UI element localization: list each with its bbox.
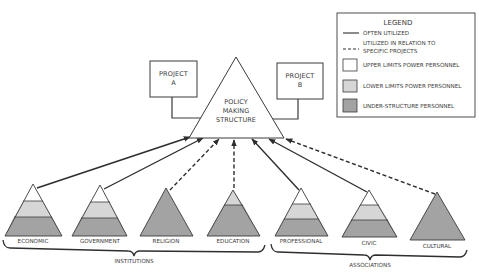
under-structure-swatch-icon [343,99,357,112]
project-a: PROJECT A [150,61,201,118]
power-structure-diagram: PROJECT A PROJECT B POLICY MAKING STRUCT… [0,0,479,274]
arrow-cultural [286,139,435,194]
pyramid-education: EDUCATION [207,190,260,244]
upper-limits-swatch-icon [343,59,357,71]
policy-line2: MAKING [223,107,250,115]
project-b-line1: PROJECT [286,72,315,80]
pyramid-economic: ECONOMIC [5,184,62,244]
legend-under-structure: UNDER-STRUCTURE PERSONNEL [363,103,455,109]
project-a-line2: A [171,79,176,87]
lower-limits-swatch-icon [343,80,357,92]
legend-specific-line1: UTILIZED IN RELATION TO [363,40,436,46]
project-b-line2: B [298,81,303,89]
group-label-associations: ASSOCIATIONS [349,262,391,268]
pyramid-religion: RELIGION [140,188,193,244]
pyramid-civic: CIVIC [342,190,397,246]
project-b: PROJECT B [271,63,323,119]
pyramid-label-government: GOVERNMENT [80,238,121,244]
legend-upper-limits: UPPER LIMITS POWER PERSONNEL [363,62,460,68]
policy-line1: POLICY [224,98,248,106]
connector-arrows [37,137,435,194]
project-a-line1: PROJECT [159,70,188,78]
pyramid-label-civic: CIVIC [362,240,377,246]
legend-often-utilized: OFTEN UTILIZED [363,30,409,36]
pyramid-cultural: CULTURAL [410,192,465,249]
legend-title: LEGEND [384,19,413,27]
arrow-professional [252,139,299,190]
arrow-civic [269,139,367,192]
pyramid-label-education: EDUCATION [217,238,250,244]
arrow-government [104,138,203,189]
arrow-religion [170,139,219,190]
project-b-connector [271,99,298,119]
project-a-connector [172,97,201,118]
pyramid-label-cultural: CULTURAL [423,243,452,249]
pyramid-label-professional: PROFESSIONAL [280,238,324,244]
group-label-institutions: INSTITUTIONS [114,258,154,264]
legend-specific-line2: SPECIFIC PROJECTS [363,48,418,55]
policy-making-structure: POLICY MAKING STRUCTURE [189,57,284,138]
pyramid-label-religion: RELIGION [153,238,180,244]
legend: LEGEND OFTEN UTILIZED UTILIZED IN RELATI… [337,13,475,117]
pyramid-professional: PROFESSIONAL [275,188,328,244]
pyramid-government: GOVERNMENT [72,185,127,244]
legend-lower-limits: LOWER LIMITS POWER PERSONNEL [363,83,462,89]
policy-line3: STRUCTURE [216,116,256,124]
pyramid-label-economic: ECONOMIC [18,238,49,244]
arrow-economic [37,137,190,188]
